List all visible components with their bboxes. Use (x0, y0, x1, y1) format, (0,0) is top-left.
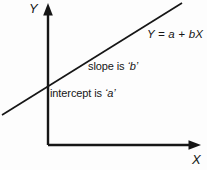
y-axis-arrowhead-icon (43, 3, 53, 16)
slope-annotation: slope is ‘b’ (88, 61, 138, 72)
diagram-canvas (0, 0, 207, 170)
regression-equation-label: Y = a + bX (147, 29, 203, 41)
intercept-annotation-symbol: ‘a’ (105, 87, 116, 99)
intercept-annotation: intercept is ‘a’ (50, 88, 116, 99)
regression-line-diagram: Y X Y = a + bX slope is ‘b’ intercept is… (0, 0, 207, 170)
intercept-annotation-prefix: intercept is (50, 87, 105, 99)
x-axis-arrowhead-icon (189, 140, 202, 150)
y-axis-label: Y (29, 2, 38, 15)
x-axis-label: X (192, 153, 201, 166)
slope-annotation-symbol: ‘b’ (127, 60, 138, 72)
slope-annotation-prefix: slope is (88, 60, 127, 72)
